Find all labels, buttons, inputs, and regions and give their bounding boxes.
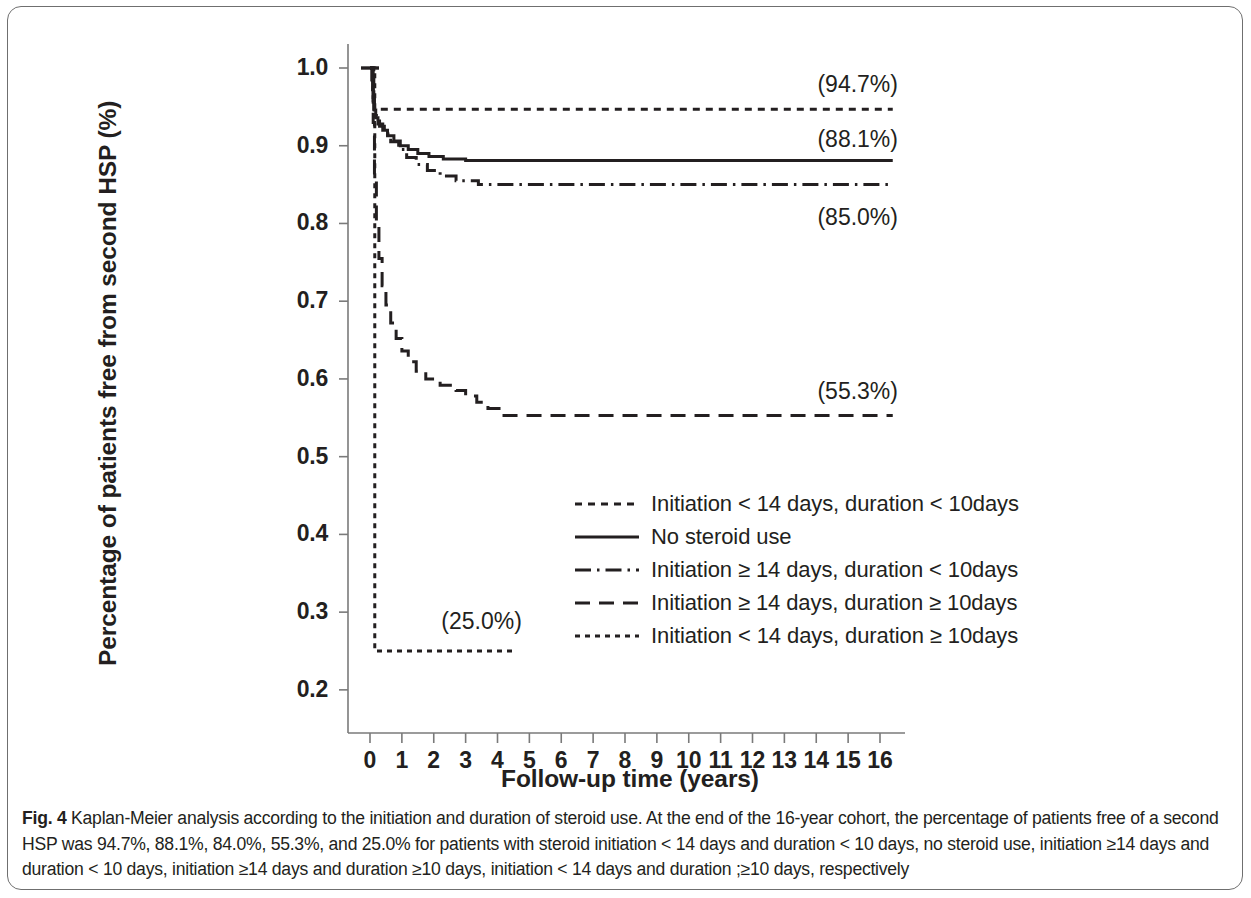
legend-item: No steroid use: [575, 520, 1005, 553]
kaplan-meier-svg: [0, 0, 1251, 800]
legend-label: Initiation ≥ 14 days, duration < 10days: [651, 557, 1018, 583]
legend-item: Initiation ≥ 14 days, duration < 10days: [575, 553, 1005, 586]
legend-label: Initiation ≥ 14 days, duration ≥ 10days: [651, 590, 1017, 616]
figure-caption: Fig. 4 Kaplan-Meier analysis according t…: [22, 806, 1232, 883]
km-curve-3: [370, 68, 893, 185]
legend-line-swatch: [575, 629, 639, 643]
endpoint-label: (88.1%): [817, 126, 898, 153]
x-axis-title: Follow-up time (years): [350, 765, 910, 793]
endpoint-label: (25.0%): [441, 608, 522, 635]
chart-plot-area: 0.20.30.40.50.60.70.80.91.0 012345678910…: [0, 0, 1251, 800]
km-curve-4: [370, 68, 893, 415]
legend-item: Initiation ≥ 14 days, duration ≥ 10days: [575, 586, 1005, 619]
figure-root: 0.20.30.40.50.60.70.80.91.0 012345678910…: [0, 0, 1251, 898]
y-axis-tick-label: 0.2: [264, 676, 328, 703]
y-axis-tick-label: 0.4: [264, 520, 328, 547]
legend-item: Initiation < 14 days, duration < 10days: [575, 487, 1005, 520]
km-curve-1: [370, 68, 893, 109]
legend-line-swatch: [575, 497, 639, 511]
y-axis-tick-label: 0.8: [264, 209, 328, 236]
legend-label: No steroid use: [651, 524, 791, 550]
endpoint-label: (55.3%): [817, 378, 898, 405]
legend-line-swatch: [575, 530, 639, 544]
y-axis-tick-label: 1.0: [264, 54, 328, 81]
chart-legend: Initiation < 14 days, duration < 10daysN…: [575, 487, 1005, 652]
figure-caption-text: Kaplan-Meier analysis according to the i…: [22, 808, 1218, 879]
y-axis-tick-label: 0.6: [264, 365, 328, 392]
figure-number: Fig. 4: [22, 808, 66, 828]
legend-line-swatch: [575, 563, 639, 577]
y-axis-title: Percentage of patients free from second …: [94, 106, 122, 666]
y-axis-tick-label: 0.9: [264, 132, 328, 159]
y-axis-tick-label: 0.7: [264, 287, 328, 314]
endpoint-label: (85.0%): [817, 204, 898, 231]
y-axis-tick-label: 0.3: [264, 598, 328, 625]
legend-label: Initiation < 14 days, duration ≥ 10days: [651, 623, 1018, 649]
legend-item: Initiation < 14 days, duration ≥ 10days: [575, 619, 1005, 652]
legend-label: Initiation < 14 days, duration < 10days: [651, 491, 1019, 517]
legend-line-swatch: [575, 596, 639, 610]
km-curve-2: [370, 68, 893, 161]
endpoint-label: (94.7%): [817, 71, 898, 98]
y-axis-tick-label: 0.5: [264, 443, 328, 470]
